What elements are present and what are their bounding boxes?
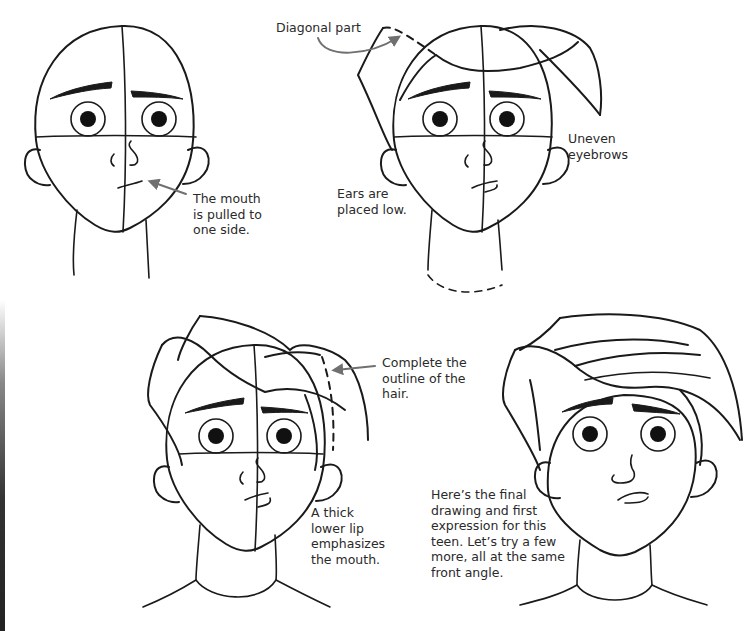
caption-diagonal-part: Diagonal part — [276, 20, 361, 36]
caption-final-drawing: Here’s the final drawing and first expre… — [431, 487, 565, 580]
caption-uneven-eyebrows: Uneven eyebrows — [568, 131, 628, 162]
caption-thick-lower-lip: A thick lower lip emphasizes the mouth. — [311, 505, 385, 567]
face-1-construction — [25, 26, 209, 278]
face-2-construction — [318, 26, 601, 292]
drawing-tutorial-page: The mouth is pulled to one side. Diagona… — [0, 0, 748, 631]
caption-mouth-pulled: The mouth is pulled to one side. — [193, 191, 262, 238]
caption-hair-outline: Complete the outline of the hair. — [382, 355, 467, 402]
caption-ears-low: Ears are placed low. — [337, 186, 407, 217]
